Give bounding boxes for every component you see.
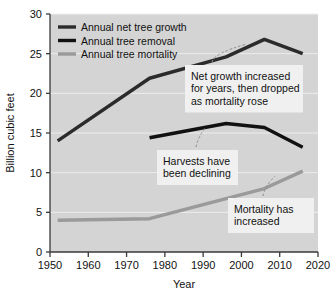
x-tick-label-1990: 1990 (191, 259, 215, 271)
y-axis-title: Billion cubic feet (4, 93, 16, 173)
annotation-line-mortality-note-0: Mortality has (234, 203, 294, 215)
annotation-line-growth-note-1: for years, then dropped (191, 82, 300, 94)
x-tick-label-2010: 2010 (267, 259, 291, 271)
annotation-line-growth-note-2: as mortality rose (191, 95, 268, 107)
legend-label-2: Annual tree mortality (81, 48, 178, 60)
x-tick-label-2000: 2000 (229, 259, 253, 271)
y-tick-label-0: 0 (36, 246, 42, 258)
line-chart: 051015202530 195019601970198019902000201… (0, 0, 332, 297)
annotation-line-removal-note-1: been declining (163, 167, 231, 179)
x-axis-title: Year (173, 278, 196, 290)
y-tick-label-10: 10 (30, 167, 42, 179)
x-tick-label-2020: 2020 (306, 259, 330, 271)
y-tick-label-15: 15 (30, 127, 42, 139)
x-tick-label-1960: 1960 (76, 259, 100, 271)
legend-label-0: Annual net tree growth (81, 21, 187, 33)
annotation-line-mortality-note-1: increased (234, 215, 280, 227)
y-tick-label-30: 30 (30, 8, 42, 20)
chart-container: 051015202530 195019601970198019902000201… (0, 0, 332, 297)
y-tick-label-20: 20 (30, 87, 42, 99)
y-tick-label-25: 25 (30, 48, 42, 60)
annotation-line-growth-note-0: Net growth increased (191, 70, 290, 82)
x-tick-label-1950: 1950 (38, 259, 62, 271)
y-tick-label-5: 5 (36, 206, 42, 218)
legend-label-1: Annual tree removal (81, 35, 175, 47)
x-tick-label-1980: 1980 (153, 259, 177, 271)
annotation-line-removal-note-0: Harvests have (163, 155, 230, 167)
x-tick-label-1970: 1970 (114, 259, 138, 271)
